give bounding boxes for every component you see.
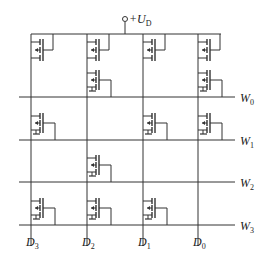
word-line-label-w2: W2 — [240, 177, 254, 192]
cell-transistor-w3-d3 — [31, 198, 55, 225]
cell-transistor-w1-d3 — [31, 113, 55, 140]
load-transistor-d2 — [87, 34, 109, 61]
word-line-label-w0: W0 — [240, 92, 254, 107]
load-transistor-d3 — [31, 34, 53, 61]
bit-line-label-d2: D2 — [82, 236, 95, 251]
bit-line-label-d3: D3 — [26, 236, 39, 251]
word-line-label-w1: W1 — [240, 135, 254, 150]
cell-transistor-w1-d0 — [198, 113, 222, 140]
cell-transistor-w2-d2 — [87, 155, 111, 182]
bit-line-label-d1: D1 — [138, 236, 151, 251]
cell-transistor-w1-d1 — [143, 113, 167, 140]
load-transistor-d1 — [143, 34, 165, 61]
cell-transistor-w0-d2 — [87, 70, 111, 97]
cell-transistor-w0-d0 — [198, 70, 222, 97]
circuit-schematic — [0, 0, 268, 269]
cell-transistor-w3-d1 — [143, 198, 167, 225]
rom-circuit-diagram: +UD W0 W1 W2 W3 D3 D2 D1 D0 — [0, 0, 268, 269]
supply-terminal — [123, 17, 128, 22]
word-line-label-w3: W3 — [240, 220, 254, 235]
bit-line-label-d0: D0 — [193, 236, 206, 251]
supply-label: +UD — [129, 13, 152, 28]
load-transistor-d0 — [198, 34, 220, 61]
cell-transistor-w3-d2 — [87, 198, 111, 225]
